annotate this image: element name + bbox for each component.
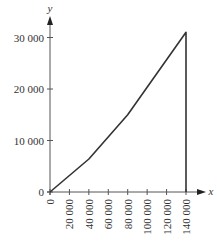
y-tick-label: 10 000 (14, 135, 45, 147)
y-tick-label: 20 000 (14, 83, 45, 95)
x-tick-label: 0 (44, 199, 56, 205)
x-tick-label: 120 000 (161, 199, 173, 235)
y-axis-label: y (47, 2, 53, 14)
x-tick-label: 140 000 (180, 199, 192, 235)
y-tick-label: 0 (39, 186, 45, 198)
series-line (50, 32, 186, 192)
data-series (50, 32, 186, 192)
x-axis-arrow-icon (197, 189, 206, 195)
x-tick-label: 100 000 (141, 199, 153, 235)
x-tick-label: 20 000 (63, 199, 75, 230)
y-tick-label: 30 000 (14, 32, 45, 44)
x-tick-label: 60 000 (102, 199, 114, 230)
line-chart: 010 00020 00030 000 020 00040 00060 0008… (0, 0, 217, 242)
x-tick-label: 40 000 (83, 199, 95, 230)
x-axis-label: x (208, 185, 214, 197)
x-tick-label: 80 000 (122, 199, 134, 230)
x-axis: 020 00040 00060 00080 000100 000120 0001… (44, 189, 206, 235)
y-axis: 010 00020 00030 000 (14, 16, 53, 198)
y-axis-arrow-icon (47, 16, 53, 25)
